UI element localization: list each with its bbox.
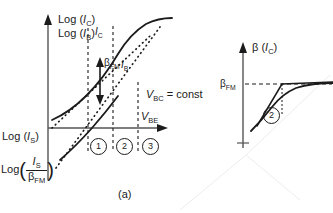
left-yaxis-label-ic: Log (IC) [58,13,95,28]
right-paren: ) [47,159,54,182]
left-paren: ( [19,159,26,182]
region-boundaries [88,26,138,152]
region-marker-3: 3 [142,138,159,155]
right-yaxis-label: β (IC) [252,41,277,56]
fraction-numerator: IS [26,156,47,171]
region-marker-1: 1 [90,138,107,155]
fraction-is-over-betafm: ISβFM [26,156,47,185]
log-is-label: Log (IS) [2,130,39,145]
left-xaxis-label: VBE [141,110,158,125]
log-is-over-beta-label: Log(ISβFM) [1,156,54,185]
asymptote-ic-dotted [52,36,150,128]
left-yaxis-label-ib: Log (IB) [58,27,95,42]
region-marker-2: 2 [116,138,133,155]
bias-condition-label: VBC = const [146,88,203,103]
beta-fm-axis-tick-label: βFM [220,78,236,91]
curve-label-ic: IC [95,26,103,39]
fraction-denominator: βFM [26,171,47,185]
curve-label-ib: IB [121,59,128,72]
figure-caption: (a) [118,188,131,200]
beta-fm-label: βFM [104,57,120,70]
right-panel-region-marker: 2 [263,107,280,124]
